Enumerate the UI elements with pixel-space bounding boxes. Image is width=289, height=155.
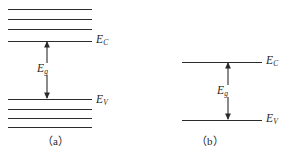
conduction-label-a-e: E — [96, 33, 103, 45]
valence-label-b-sub: V — [273, 117, 278, 126]
valence-label-a: EV — [96, 94, 108, 106]
caption-a: （a） — [42, 136, 69, 147]
conduction-label-b: EC — [266, 55, 278, 67]
bandgap-label-b: Eg — [216, 85, 229, 97]
panel-b: Eg EC EV （b） — [145, 0, 289, 155]
bandgap-label-a: Eg — [36, 63, 49, 75]
conduction-label-b-e: E — [266, 54, 273, 66]
conduction-level-a-1 — [8, 9, 92, 10]
valence-label-a-e: E — [96, 93, 103, 105]
conduction-label-b-sub: C — [273, 59, 278, 68]
energy-band-figure: Eg EC EV （a） Eg EC — [0, 0, 289, 155]
conduction-label-a: EC — [96, 34, 108, 46]
valence-label-a-sub: V — [103, 98, 108, 107]
bandgap-label-a-e: E — [37, 62, 44, 74]
valence-label-b-e: E — [266, 112, 273, 124]
valence-level-a-2 — [8, 109, 92, 110]
panel-a: Eg EC EV （a） — [0, 0, 145, 155]
valence-level-a-3 — [8, 118, 92, 119]
valence-level-a-4 — [8, 127, 92, 128]
conduction-level-a-2 — [8, 19, 92, 20]
valence-label-b: EV — [266, 113, 278, 125]
bandgap-label-a-sub: g — [44, 67, 48, 76]
bandgap-label-b-e: E — [217, 84, 224, 96]
conduction-level-a-3 — [8, 29, 92, 30]
conduction-label-a-sub: C — [103, 38, 108, 47]
bandgap-label-b-sub: g — [224, 89, 228, 98]
caption-b: （b） — [196, 136, 224, 147]
